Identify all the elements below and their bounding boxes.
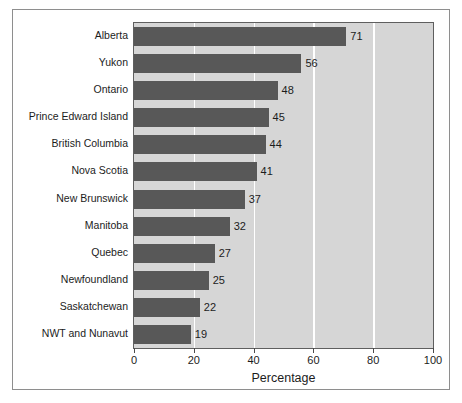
- bar-value-label: 37: [249, 194, 261, 205]
- bar-row: 25: [134, 271, 433, 290]
- x-tick-label-0: 0: [131, 355, 137, 366]
- x-tick-mark-80: [373, 348, 374, 353]
- bar: [134, 190, 245, 209]
- bar-value-label: 71: [350, 31, 362, 42]
- bar-row: 32: [134, 217, 433, 236]
- bar-row: 37: [134, 190, 433, 209]
- bar-row: 56: [134, 54, 433, 73]
- bar-row: 19: [134, 325, 433, 344]
- y-axis-label-newfoundland: Newfoundland: [61, 274, 128, 285]
- bar-row: 41: [134, 162, 433, 181]
- x-tick-label-20: 20: [188, 355, 200, 366]
- bar: [134, 81, 278, 100]
- x-tick-label-100: 100: [424, 355, 442, 366]
- bar-value-label: 19: [195, 329, 207, 340]
- y-axis-label-manitoba: Manitoba: [85, 220, 128, 231]
- bar-value-label: 56: [305, 58, 317, 69]
- bar-value-label: 41: [261, 166, 273, 177]
- y-axis-label-prince-edward-island: Prince Edward Island: [29, 111, 128, 122]
- x-tick-label-80: 80: [367, 355, 379, 366]
- x-tick-mark-40: [254, 348, 255, 353]
- bar-row: 22: [134, 298, 433, 317]
- bar-value-label: 25: [213, 275, 225, 286]
- bar: [134, 162, 257, 181]
- y-axis-label-nwt-and-nunavut: NWT and Nunavut: [42, 328, 128, 339]
- x-tick-mark-0: [134, 348, 135, 353]
- bar-row: 48: [134, 81, 433, 100]
- bar-value-label: 22: [204, 302, 216, 313]
- bar-value-label: 27: [219, 248, 231, 259]
- bar: [134, 54, 301, 73]
- y-axis-label-ontario: Ontario: [94, 84, 128, 95]
- y-axis-label-yukon: Yukon: [99, 57, 128, 68]
- y-axis-category-labels: AlbertaYukonOntarioPrince Edward IslandB…: [13, 22, 128, 347]
- bar: [134, 217, 230, 236]
- bar-value-label: 45: [273, 112, 285, 123]
- bar: [134, 135, 266, 154]
- x-tick-label-60: 60: [307, 355, 319, 366]
- bar-row: 44: [134, 135, 433, 154]
- y-axis-label-british-columbia: British Columbia: [52, 138, 128, 149]
- y-axis-label-saskatchewan: Saskatchewan: [60, 301, 128, 312]
- y-axis-label-alberta: Alberta: [95, 30, 128, 41]
- y-axis-label-quebec: Quebec: [91, 247, 128, 258]
- bar: [134, 325, 191, 344]
- bar-row: 27: [134, 244, 433, 263]
- chart-figure: 715648454441373227252219 AlbertaYukonOnt…: [12, 9, 450, 390]
- x-axis-title: Percentage: [133, 372, 434, 385]
- bar-value-label: 44: [270, 139, 282, 150]
- bar-value-label: 32: [234, 221, 246, 232]
- x-tick-mark-20: [194, 348, 195, 353]
- page-caption-strip: [12, 394, 450, 403]
- bar: [134, 27, 346, 46]
- y-axis-label-new-brunswick: New Brunswick: [56, 193, 128, 204]
- bar-row: 71: [134, 27, 433, 46]
- y-axis-label-nova-scotia: Nova Scotia: [71, 165, 128, 176]
- x-tick-mark-60: [313, 348, 314, 353]
- bar: [134, 108, 269, 127]
- bar-value-label: 48: [282, 85, 294, 96]
- bar: [134, 271, 209, 290]
- x-tick-mark-100: [433, 348, 434, 353]
- x-tick-label-40: 40: [247, 355, 259, 366]
- bar: [134, 244, 215, 263]
- bar-row: 45: [134, 108, 433, 127]
- plot-area: 715648454441373227252219: [133, 22, 434, 349]
- bar: [134, 298, 200, 317]
- bar-series: 715648454441373227252219: [134, 23, 433, 348]
